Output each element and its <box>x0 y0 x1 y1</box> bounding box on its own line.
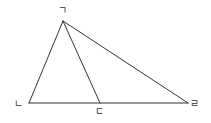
segment-giyeok-nieun <box>29 21 63 103</box>
triangle-diagram: ㄱ ㄴ ㄷ ㄹ <box>0 0 211 123</box>
label-apex: ㄱ <box>58 5 67 16</box>
label-right: ㄹ <box>190 98 199 109</box>
label-left: ㄴ <box>14 98 23 109</box>
label-middle: ㄷ <box>95 106 104 117</box>
